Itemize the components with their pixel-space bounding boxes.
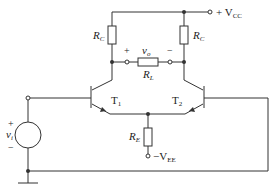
circuit-diagram: + VCC RC RC + − vo RL T1 T2 RE −VEE + vi…	[0, 0, 273, 194]
re-resistor	[144, 128, 152, 146]
rc-left-label: RC	[92, 29, 105, 43]
rc-right-resistor	[180, 26, 188, 44]
minus-in-label: −	[8, 142, 14, 153]
rl-resistor	[138, 58, 158, 66]
rc-left-resistor	[108, 26, 116, 44]
rl-label: RL	[142, 68, 154, 82]
plus-out-label: +	[124, 45, 130, 56]
vee-label: −VEE	[153, 150, 176, 164]
voltage-source	[15, 122, 41, 148]
minus-out-label: −	[167, 45, 173, 56]
schematic: + VCC RC RC + − vo RL T1 T2 RE −VEE + vi…	[0, 0, 273, 194]
vi-label: vi	[6, 128, 13, 142]
re-label: RE	[128, 130, 141, 144]
rc-right-label: RC	[192, 29, 205, 43]
t1-label: T1	[111, 94, 122, 108]
t2-label: T2	[172, 94, 183, 108]
vcc-terminal	[208, 10, 212, 14]
vo-label: vo	[142, 44, 151, 58]
vcc-label: + VCC	[216, 6, 242, 20]
